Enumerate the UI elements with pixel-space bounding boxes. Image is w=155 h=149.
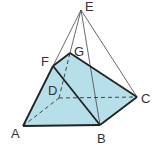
vertex-label-C: C <box>141 91 150 106</box>
vertex-label-F: F <box>41 54 49 69</box>
vertex-label-G: G <box>74 44 84 59</box>
vertex-label-B: B <box>97 131 106 146</box>
edge-AB <box>23 125 100 126</box>
vertex-label-D: D <box>48 83 57 98</box>
vertex-label-E: E <box>85 0 94 14</box>
vertex-label-A: A <box>11 126 20 141</box>
pyramid-diagram: E G F D C A B <box>0 0 155 149</box>
diagram-svg: E G F D C A B <box>0 0 155 149</box>
